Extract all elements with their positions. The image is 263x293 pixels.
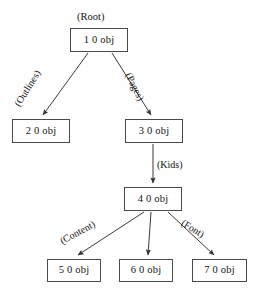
edge-kids-to-content (78, 212, 144, 255)
node-6-0-obj: 6 0 obj (119, 259, 173, 282)
node-label: 2 0 obj (26, 126, 57, 137)
node-1-0-obj: 1 0 obj (70, 28, 128, 52)
edge-label-kids: (Kids) (157, 160, 183, 170)
node-2-0-obj: 2 0 obj (12, 119, 70, 143)
node-label: 3 0 obj (139, 126, 170, 137)
node-5-0-obj: 5 0 obj (47, 259, 101, 282)
pdf-object-tree-diagram: (Root) 1 0 obj 2 0 obj 3 0 obj 4 0 obj 5… (0, 0, 263, 293)
node-7-0-obj: 7 0 obj (192, 259, 247, 282)
node-3-0-obj: 3 0 obj (125, 119, 183, 143)
node-label: 7 0 obj (204, 265, 235, 276)
node-label: 6 0 obj (131, 265, 162, 276)
edge-layer (0, 0, 263, 293)
edge-root-to-outlines (43, 53, 88, 115)
node-4-0-obj: 4 0 obj (124, 187, 182, 211)
root-caption: (Root) (77, 12, 104, 23)
edge-kids-to-middle (148, 212, 151, 255)
node-label: 1 0 obj (84, 35, 115, 46)
node-label: 5 0 obj (59, 265, 90, 276)
node-label: 4 0 obj (138, 194, 169, 205)
